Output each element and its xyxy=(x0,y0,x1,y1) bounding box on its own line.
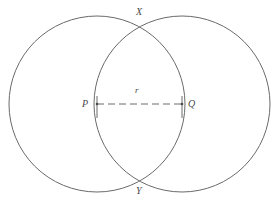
center-point-label-q: Q xyxy=(188,99,195,109)
radius-label: r xyxy=(135,86,139,95)
center-q-dot xyxy=(181,103,184,106)
intersection-label-x: X xyxy=(136,7,142,17)
center-p-dot xyxy=(96,103,99,106)
intersection-label-y: Y xyxy=(136,186,142,196)
geometry-diagram: P Q r X Y xyxy=(0,0,277,202)
center-point-label-p: P xyxy=(82,99,88,109)
diagram-canvas xyxy=(0,0,277,202)
